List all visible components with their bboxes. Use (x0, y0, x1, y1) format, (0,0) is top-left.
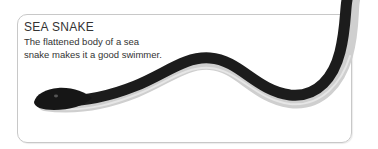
card-title: SEA SNAKE (24, 20, 94, 34)
card-caption: The flattened body of a sea snake makes … (24, 35, 164, 61)
